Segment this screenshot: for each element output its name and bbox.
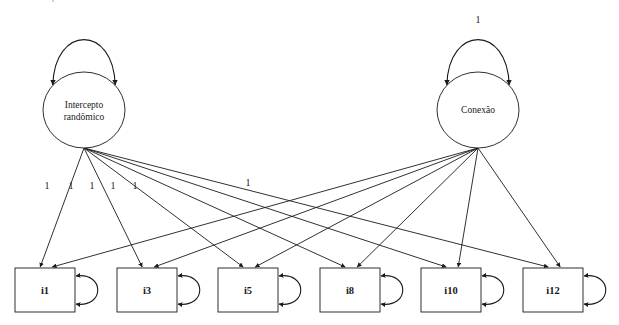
loading-path-intercepto-i3 bbox=[84, 148, 142, 267]
latent-ellipse-intercepto bbox=[43, 72, 125, 148]
loading-coefficient-label-1: 1 bbox=[45, 180, 50, 191]
loading-edges-group bbox=[40, 148, 560, 267]
loading-path-conexao-i10 bbox=[458, 148, 478, 267]
loading-path-intercepto-i1 bbox=[40, 148, 84, 267]
indicator-label-i3: i3 bbox=[143, 285, 151, 296]
loading-path-conexao-i8 bbox=[357, 148, 478, 267]
loading-coefficient-label-2: 1 bbox=[69, 180, 74, 191]
loading-path-conexao-i3 bbox=[154, 148, 478, 267]
loading-path-conexao-i1 bbox=[52, 148, 478, 267]
latent-label-intercepto-line2: randômico bbox=[64, 112, 105, 122]
residual-loop-i12 bbox=[584, 276, 606, 305]
indicator-label-i5: i5 bbox=[244, 285, 252, 296]
loading-path-intercepto-i5 bbox=[84, 148, 243, 267]
variance-label-conexao: 1 bbox=[476, 14, 481, 25]
loading-path-conexao-i12 bbox=[478, 148, 560, 267]
loading-coefficient-label-3: 1 bbox=[90, 180, 95, 191]
latent-label-conexao: Conexão bbox=[461, 105, 495, 115]
residual-loop-i3 bbox=[178, 276, 200, 305]
loading-coefficient-label-6: 1 bbox=[246, 177, 251, 188]
residual-loop-i1 bbox=[76, 276, 98, 305]
loading-coefficient-label-4: 1 bbox=[111, 180, 116, 191]
diagram-labels-group: InterceptorandômicoConexão1i1i3i5i8i10i1… bbox=[41, 14, 560, 296]
residual-loop-i10 bbox=[482, 276, 504, 305]
diagram-canvas: InterceptorandômicoConexão1i1i3i5i8i10i1… bbox=[0, 0, 619, 325]
residual-loop-i5 bbox=[279, 276, 301, 305]
indicator-label-i8: i8 bbox=[346, 285, 354, 296]
indicator-label-i10: i10 bbox=[444, 285, 457, 296]
latent-label-intercepto: Intercepto bbox=[65, 100, 104, 110]
sem-path-diagram: Modelo de equacoes estruturais Intercept… bbox=[0, 0, 619, 325]
indicator-label-i1: i1 bbox=[41, 285, 49, 296]
loading-path-conexao-i5 bbox=[255, 148, 478, 267]
indicator-label-i12: i12 bbox=[546, 285, 559, 296]
residual-loop-i8 bbox=[381, 276, 403, 305]
loading-coefficient-label-5: 1 bbox=[133, 180, 138, 191]
loading-path-intercepto-i8 bbox=[84, 148, 345, 267]
